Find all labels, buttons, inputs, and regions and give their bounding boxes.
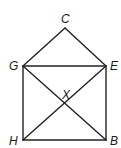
segment-gc — [23, 28, 65, 66]
label-b: B — [110, 134, 118, 148]
label-x: X — [61, 88, 71, 102]
segment-ce — [65, 28, 106, 66]
label-g: G — [9, 59, 18, 73]
geometry-figure: C G E X H B — [0, 0, 121, 148]
label-e: E — [110, 59, 119, 73]
label-c: C — [61, 12, 70, 26]
label-h: H — [9, 134, 18, 148]
